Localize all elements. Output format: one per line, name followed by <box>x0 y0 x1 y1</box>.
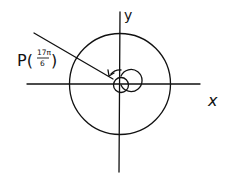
svg-text:P(: P( <box>17 51 33 70</box>
svg-text:): ) <box>51 51 57 70</box>
svg-text:x: x <box>207 91 218 110</box>
svg-text:17π: 17π <box>37 48 52 57</box>
point-label: P( 17π 6 ) <box>17 48 57 70</box>
unit-circle-diagram: y x P( 17π 6 ) <box>0 0 231 178</box>
x-axis-label: x <box>207 91 218 110</box>
arrowhead-icon <box>108 70 114 76</box>
svg-text:6: 6 <box>40 59 45 68</box>
svg-text:y: y <box>124 7 132 23</box>
y-axis-label: y <box>124 7 132 23</box>
